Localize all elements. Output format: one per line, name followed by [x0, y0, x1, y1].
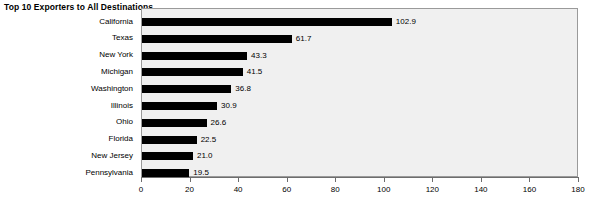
- bar-value-label: 102.9: [396, 17, 416, 26]
- x-axis-tick: [335, 178, 336, 182]
- x-axis-tick-label: 120: [426, 185, 439, 194]
- bar: [142, 136, 197, 144]
- x-axis-tick: [238, 178, 239, 182]
- x-axis-tick: [287, 178, 288, 182]
- bar: [142, 152, 193, 160]
- bar-value-label: 26.6: [211, 118, 227, 127]
- x-axis-tick-label: 0: [139, 185, 143, 194]
- x-axis-tick-label: 100: [377, 185, 390, 194]
- bar-value-label: 36.8: [235, 84, 251, 93]
- x-axis-tick-label: 80: [331, 185, 340, 194]
- category-label: Washington: [91, 84, 133, 93]
- category-label: Ohio: [116, 117, 133, 126]
- x-axis-tick-label: 60: [282, 185, 291, 194]
- bar-value-label: 21.0: [197, 151, 213, 160]
- x-axis-tick-label: 140: [474, 185, 487, 194]
- bar: [142, 102, 217, 110]
- chart-figure: Top 10 Exporters to All Destinations Cal…: [0, 0, 594, 198]
- y-axis-category-labels: CaliforniaTexasNew YorkMichiganWashingto…: [0, 8, 137, 177]
- x-axis-tick: [384, 178, 385, 182]
- bar: [142, 52, 247, 60]
- bar-row: 30.9: [142, 102, 579, 110]
- bar-value-label: 30.9: [221, 101, 237, 110]
- bar-row: 102.9: [142, 18, 579, 26]
- category-label: New Jersey: [91, 151, 133, 160]
- x-axis-tick: [578, 178, 579, 182]
- x-axis-tick-label: 160: [523, 185, 536, 194]
- x-axis-tick-label: 20: [185, 185, 194, 194]
- bar-row: 26.6: [142, 119, 579, 127]
- bar: [142, 68, 243, 76]
- bar: [142, 35, 292, 43]
- x-axis-tick: [141, 178, 142, 182]
- category-label: New York: [99, 50, 133, 59]
- bar-row: 61.7: [142, 35, 579, 43]
- x-axis-tick: [529, 178, 530, 182]
- category-label: Michigan: [101, 67, 133, 76]
- bar-row: 41.5: [142, 68, 579, 76]
- category-label: Pennsylvania: [85, 168, 133, 177]
- bar: [142, 18, 392, 26]
- x-axis-tick: [432, 178, 433, 182]
- x-axis-tick-label: 40: [234, 185, 243, 194]
- category-label: California: [99, 17, 133, 26]
- category-label: Texas: [112, 33, 133, 42]
- bar-value-label: 61.7: [296, 34, 312, 43]
- bar-value-label: 41.5: [247, 67, 263, 76]
- bar-value-label: 43.3: [251, 51, 267, 60]
- bar-row: 36.8: [142, 85, 579, 93]
- x-axis-line: [141, 177, 579, 178]
- bar: [142, 119, 207, 127]
- x-axis-tick: [190, 178, 191, 182]
- category-label: Florida: [109, 134, 133, 143]
- category-label: Illinois: [111, 101, 133, 110]
- plot-area: 102.961.743.341.536.830.926.622.521.019.…: [141, 8, 578, 177]
- bars-container: 102.961.743.341.536.830.926.622.521.019.…: [142, 9, 577, 176]
- bar-row: 43.3: [142, 52, 579, 60]
- x-axis-tick: [481, 178, 482, 182]
- bar: [142, 169, 189, 177]
- bar-row: 21.0: [142, 152, 579, 160]
- x-axis-tick-label: 180: [571, 185, 584, 194]
- bar-value-label: 22.5: [201, 135, 217, 144]
- bar-row: 22.5: [142, 136, 579, 144]
- bar: [142, 85, 231, 93]
- bar-row: 19.5: [142, 169, 579, 177]
- bar-value-label: 19.5: [193, 168, 209, 177]
